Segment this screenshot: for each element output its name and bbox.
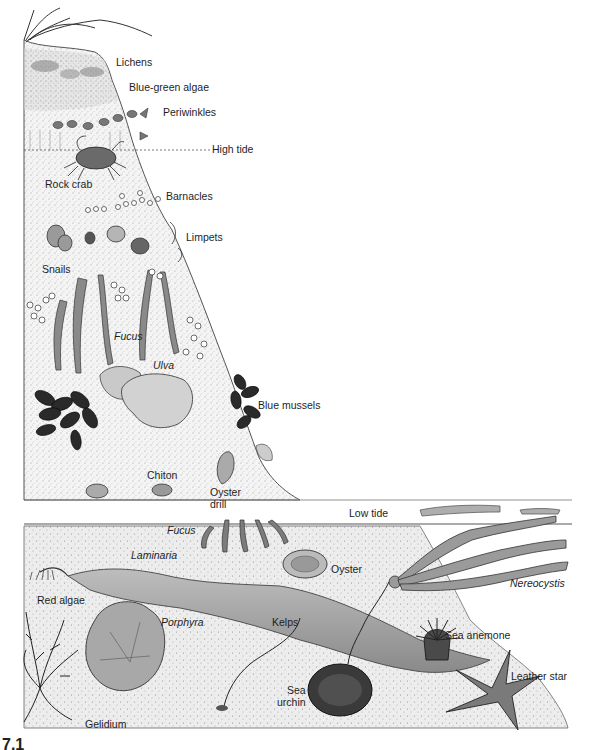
label-chiton: Chiton: [147, 469, 177, 481]
label-leather-star: Leather star: [511, 670, 567, 682]
figure-number: 7.1: [2, 736, 24, 750]
label-rock-crab: Rock crab: [45, 178, 92, 190]
label-porphyra: Porphyra: [161, 616, 204, 628]
label-laminaria: Laminaria: [131, 549, 177, 561]
label-kelps: Kelps: [272, 616, 298, 628]
label-fucus-lower: Fucus: [167, 524, 196, 536]
label-nereocystis: Nereocystis: [510, 577, 565, 589]
label-blue-green-algae: Blue-green algae: [129, 81, 209, 93]
label-snails: Snails: [42, 263, 71, 275]
label-limpets: Limpets: [186, 231, 223, 243]
label-blue-mussels: Blue mussels: [258, 399, 320, 411]
label-ulva: Ulva: [153, 359, 174, 371]
label-lichens: Lichens: [116, 56, 152, 68]
label-low-tide: Low tide: [349, 507, 388, 519]
label-barnacles: Barnacles: [166, 190, 213, 202]
label-oyster-drill: Oyster drill: [210, 486, 241, 510]
label-gelidium: Gelidium: [85, 718, 126, 730]
label-fucus-upper: Fucus: [114, 330, 143, 342]
label-sea-anemone: Sea anemone: [445, 629, 510, 641]
sea-urchin-illustration: [308, 664, 372, 716]
label-oyster: Oyster: [331, 563, 362, 575]
label-high-tide: High tide: [212, 143, 253, 155]
label-sea-urchin: Sea urchin: [277, 684, 306, 708]
label-periwinkles: Periwinkles: [163, 106, 216, 118]
label-red-algae: Red algae: [37, 594, 85, 606]
intertidal-diagram: Lichens Blue-green algae Periwinkles Hig…: [0, 0, 590, 750]
